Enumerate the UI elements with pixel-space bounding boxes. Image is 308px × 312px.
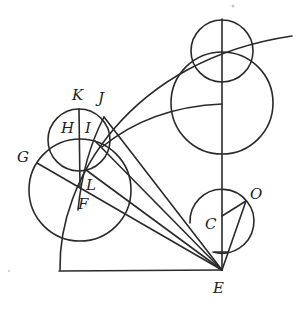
speck [232, 5, 235, 8]
label-h: H [60, 119, 75, 137]
label-k: K [71, 86, 84, 104]
inner-arc [102, 104, 222, 147]
label-i: I [84, 119, 92, 137]
diagram-canvas: K J H I G L F C O E [0, 0, 308, 312]
outer-arc [60, 36, 292, 270]
ray-e-l [86, 170, 222, 270]
ray-e-i [95, 141, 222, 270]
label-o: O [250, 185, 262, 203]
label-l: L [85, 176, 96, 194]
ray-e-j [104, 117, 222, 270]
geometry-figure: K J H I G L F C O E [0, 0, 308, 312]
line-k-l [79, 109, 80, 188]
label-j: J [95, 89, 105, 107]
speck [8, 270, 10, 272]
label-c: C [205, 215, 217, 233]
base-line [59, 270, 222, 271]
line-e-o [222, 201, 246, 270]
label-g: G [17, 148, 29, 166]
label-e: E [212, 279, 224, 297]
label-f: F [77, 195, 89, 213]
